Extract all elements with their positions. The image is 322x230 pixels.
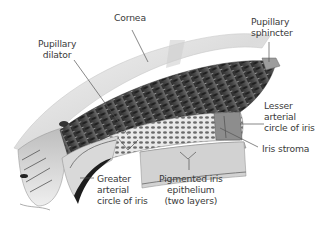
label-iris-stroma: Iris stroma xyxy=(262,143,309,154)
label-cornea: Cornea xyxy=(114,12,146,23)
label-lesser-arterial-circle: Lesser arterial circle of iris xyxy=(264,100,315,133)
label-greater-arterial-circle: Greater arterial circle of iris xyxy=(97,173,148,206)
label-pupillary-sphincter: Pupillary sphincter xyxy=(251,16,293,38)
iris-anatomy-diagram: Cornea Pupillary sphincter Pupillary dil… xyxy=(0,0,322,230)
label-pupillary-dilator: Pupillary dilator xyxy=(38,38,76,60)
label-pigmented-iris-epithelium: Pigmented iris epithelium (two layers) xyxy=(159,173,223,206)
